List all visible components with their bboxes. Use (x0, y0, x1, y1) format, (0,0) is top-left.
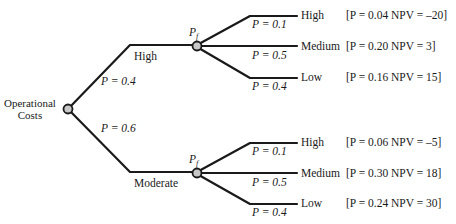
outcome-label-high: High (134, 50, 157, 63)
leaf-prob-moderate-low: P = 0.4 (252, 206, 287, 219)
outcome-label-moderate: Moderate (134, 177, 178, 190)
leaf-outcome-high-low: Low (301, 71, 322, 84)
leaf-outcome-high-high: High (301, 9, 324, 22)
root-chance-node (64, 105, 73, 114)
leaf-result-high-low: [P = 0.16 NPV = 15] (346, 71, 441, 84)
node-label-pf-high: Pf (189, 26, 198, 43)
leaf-prob-high-low: P = 0.4 (252, 80, 287, 93)
leaf-prob-high-medium: P = 0.5 (252, 49, 287, 62)
leaf-result-moderate-low: [P = 0.24 NPV = 30] (346, 197, 441, 210)
leaf-result-moderate-high: [P = 0.06 NPV = –5] (346, 136, 441, 149)
leaf-outcome-high-medium: Medium (301, 40, 340, 53)
leaf-result-moderate-medium: [P = 0.30 NPV = 18] (346, 167, 441, 180)
node-label-pf-moderate: Pf (189, 153, 198, 170)
leaf-prob-moderate-high: P = 0.1 (252, 145, 287, 158)
leaf-prob-high-high: P = 0.1 (252, 18, 287, 31)
leaf-result-high-medium: [P = 0.20 NPV = 3] (346, 40, 436, 53)
leaf-outcome-moderate-low: Low (301, 197, 322, 210)
leaf-prob-moderate-medium: P = 0.5 (252, 176, 287, 189)
prob-label-moderate: P = 0.6 (101, 122, 136, 135)
decision-tree-diagram (0, 0, 456, 224)
leaf-outcome-moderate-high: High (301, 136, 324, 149)
leaf-result-high-high: [P = 0.04 NPV = –20] (346, 9, 447, 22)
root-label: Operational Costs (4, 97, 56, 121)
leaf-outcome-moderate-medium: Medium (301, 167, 340, 180)
root-label-line1: Operational (4, 97, 56, 109)
prob-label-high: P = 0.4 (101, 75, 136, 88)
root-label-line2: Costs (4, 109, 56, 121)
branch-moderate (68, 109, 197, 172)
